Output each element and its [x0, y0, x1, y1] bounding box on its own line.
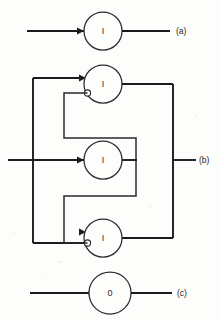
paper-speck [195, 115, 196, 116]
panel-a-label: (a) [176, 26, 187, 36]
panel-b-mid-input-arrow-icon [77, 157, 84, 164]
panel-c-label: (c) [177, 288, 187, 298]
panel-a-input-arrow-icon [77, 28, 84, 35]
panel-c-group: 0 (c) [30, 272, 187, 314]
neuron-circuit-diagram: I (a) I I I [0, 0, 219, 321]
paper-speck [59, 261, 61, 263]
paper-speck [44, 271, 45, 272]
panel-a-group: I (a) [27, 12, 187, 50]
paper-speck [13, 232, 14, 233]
panel-b-group: I I I (b) [8, 65, 210, 257]
figure-root: I (a) I I I [0, 0, 219, 321]
paper-speck [167, 271, 168, 272]
paper-speck [149, 205, 150, 206]
node-b-mid-label: I [102, 155, 105, 165]
panel-b-label: (b) [199, 155, 210, 165]
node-c-label: 0 [107, 288, 112, 298]
node-b-top-label: I [102, 79, 105, 89]
node-b-bot-label: I [102, 233, 105, 243]
node-a-label: I [102, 26, 105, 36]
